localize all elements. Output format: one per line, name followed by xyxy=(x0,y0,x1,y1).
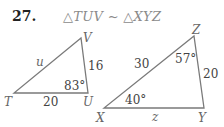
side-vu-label: 16 xyxy=(88,59,103,73)
vertex-t-label: T xyxy=(4,95,13,109)
vertex-x-label: X xyxy=(95,111,105,125)
side-xy-label: z xyxy=(151,110,159,124)
angle-z-label: 57° xyxy=(175,52,196,66)
side-xz-label: 30 xyxy=(134,57,149,71)
angle-u-label: 83° xyxy=(64,79,85,93)
angle-x-label: 40° xyxy=(125,93,146,107)
triangle-xyz xyxy=(104,36,204,108)
side-tu-label: 20 xyxy=(43,95,58,109)
side-zy-label: 20 xyxy=(203,67,218,81)
similar-triangles-diagram: T U V u 16 20 83° X Y Z 30 20 z 57° 40° xyxy=(0,0,224,127)
vertex-v-label: V xyxy=(83,31,93,45)
vertex-u-label: U xyxy=(83,95,94,109)
side-tv-label: u xyxy=(36,55,44,69)
vertex-y-label: Y xyxy=(198,111,207,125)
vertex-z-label: Z xyxy=(191,23,201,37)
